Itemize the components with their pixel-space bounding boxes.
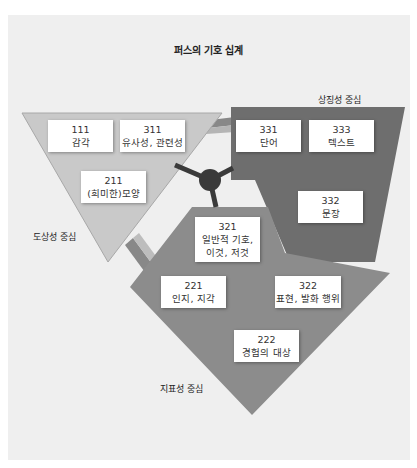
box-code: 321 [195, 220, 260, 233]
diagram-title: 퍼스의 기호 십계 [0, 42, 417, 57]
box-331: 331 단어 [236, 120, 301, 152]
box-321: 321 일반적 기호, 이것, 저것 [195, 217, 260, 262]
box-221: 221 인지, 지각 [161, 276, 226, 308]
iconic-label: 도상성 중심 [33, 230, 76, 243]
box-222: 222 경험의 대상 [234, 330, 299, 362]
box-211: 211 (희미한)모양 [81, 171, 146, 203]
box-code: 332 [298, 194, 363, 207]
box-code: 222 [234, 333, 299, 346]
box-code: 331 [236, 123, 301, 136]
box-text: 문장 [298, 207, 363, 220]
box-text: 인지, 지각 [161, 292, 226, 305]
box-code: 111 [48, 123, 113, 136]
box-text: (희미한)모양 [81, 187, 146, 200]
box-text: 텍스트 [309, 136, 374, 149]
box-text: 이것, 저것 [195, 246, 260, 259]
box-text: 표현, 발화 행위 [275, 292, 341, 305]
box-text: 유사성, 관련성 [120, 136, 185, 149]
hub-node [199, 169, 221, 191]
indexical-label: 지표성 중심 [160, 382, 203, 395]
box-322: 322 표현, 발화 행위 [275, 276, 341, 308]
box-text: 경험의 대상 [234, 346, 299, 359]
box-332: 332 문장 [298, 191, 363, 223]
box-text: 일반적 기호, [195, 233, 260, 246]
box-text: 감각 [48, 136, 113, 149]
box-code: 221 [161, 279, 226, 292]
symbolic-label: 상징성 중심 [318, 93, 361, 106]
box-code: 322 [275, 279, 341, 292]
box-333: 333 텍스트 [309, 120, 374, 152]
box-311: 311 유사성, 관련성 [120, 120, 185, 152]
box-text: 단어 [236, 136, 301, 149]
box-111: 111 감각 [48, 120, 113, 152]
box-code: 211 [81, 174, 146, 187]
box-code: 311 [120, 123, 185, 136]
box-code: 333 [309, 123, 374, 136]
